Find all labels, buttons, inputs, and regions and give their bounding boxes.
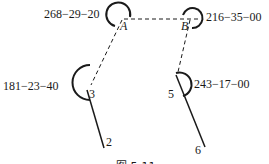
angle-arc-3 xyxy=(72,65,90,100)
angle-value-A: 268−29−20 xyxy=(44,7,100,21)
point-label-A: A xyxy=(119,19,128,33)
point-label-2: 2 xyxy=(106,135,112,149)
point-label-3: 3 xyxy=(89,87,95,101)
angle-value-3: 181−23−40 xyxy=(3,79,59,93)
point-label-6: 6 xyxy=(195,143,201,157)
traverse-diagram: A B 3 2 5 6 268−29−20 216−35−00 181−23−4… xyxy=(0,0,269,164)
dashed-line-A-3 xyxy=(91,20,122,85)
angle-value-5: 243−17−00 xyxy=(194,77,250,91)
angle-value-B: 216−35−00 xyxy=(206,10,262,24)
point-label-B: B xyxy=(181,19,189,33)
figure-caption: 图 5-11 xyxy=(116,160,155,164)
point-label-5: 5 xyxy=(168,87,174,101)
